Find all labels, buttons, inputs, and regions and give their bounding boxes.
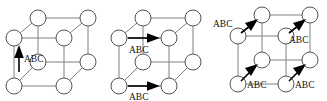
node-back-bottom-left	[135, 54, 151, 70]
node-front-top-left	[6, 30, 22, 46]
arrow-right-front-lower	[128, 81, 160, 91]
arrow-label-1: ABC	[24, 54, 44, 64]
cube-edges	[14, 18, 88, 86]
cube-step-2: ABC ABC	[105, 0, 210, 101]
node-front-bottom-right	[161, 78, 177, 94]
cube-broadcast-figure: ABC	[0, 0, 327, 101]
cube-step-3: ABC ABC ABC ABC	[210, 0, 327, 101]
node-back-top-left	[135, 10, 151, 26]
node-front-top-right	[161, 30, 177, 46]
arrow-label-3c: ABC	[247, 80, 267, 90]
arrow-up-front-left	[14, 45, 24, 72]
node-front-bottom-left	[111, 78, 127, 94]
arrow-diag-lower-right	[289, 64, 306, 81]
arrow-diag-lower-left	[241, 64, 258, 81]
arrow-label-2b: ABC	[129, 92, 149, 101]
node-front-top-left	[111, 30, 127, 46]
cube-nodes	[111, 10, 201, 94]
node-back-top-left	[30, 10, 46, 26]
arrow-diag-upper-left	[241, 19, 258, 33]
arrow-diag-upper-right	[289, 19, 306, 33]
node-back-bottom-right	[185, 54, 201, 70]
cube-step-1: ABC	[0, 0, 105, 101]
arrow-label-3a: ABC	[213, 19, 233, 29]
node-front-top-right	[56, 30, 72, 46]
arrow-right-back-upper	[128, 33, 160, 43]
node-back-top-right	[185, 10, 201, 26]
arrow-label-3b: ABC	[289, 35, 309, 45]
node-front-bottom-left	[6, 78, 22, 94]
arrow-label-3d: ABC	[295, 80, 315, 90]
node-back-top-right	[80, 10, 96, 26]
arrow-label-2a: ABC	[129, 45, 149, 55]
node-front-bottom-right	[56, 78, 72, 94]
node-back-bottom-right	[80, 54, 96, 70]
